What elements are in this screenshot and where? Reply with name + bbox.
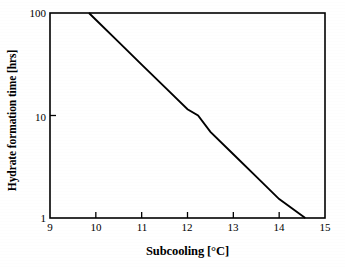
chart-figure: Hydrate formation time [hrs] 100 10 1 9 … (0, 0, 345, 267)
plot-area (0, 0, 345, 267)
plot-frame (50, 13, 325, 218)
